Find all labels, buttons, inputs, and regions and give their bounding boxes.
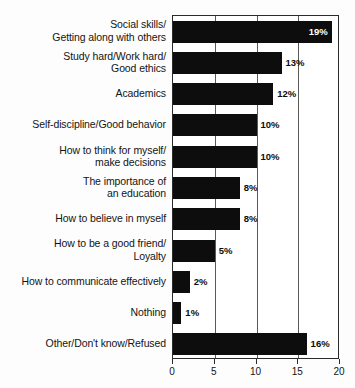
bar bbox=[173, 333, 307, 355]
x-tick-mark bbox=[297, 359, 298, 364]
x-tick-label: 20 bbox=[324, 366, 354, 377]
category-label: Nothing bbox=[0, 306, 166, 318]
bar-value-label: 19% bbox=[173, 21, 328, 43]
x-tick-label: 0 bbox=[157, 366, 187, 377]
bar bbox=[173, 177, 240, 199]
chart-title bbox=[120, 0, 300, 6]
category-label: How to be a good friend/Loyalty bbox=[0, 237, 166, 261]
plot-area: 19%13%12%10%10%8%8%5%2%1%16% bbox=[172, 15, 339, 359]
bar-value-label: 10% bbox=[261, 146, 280, 168]
category-label: The importance ofan education bbox=[0, 175, 166, 199]
bar bbox=[173, 83, 273, 105]
category-label: How to believe in myself bbox=[0, 212, 166, 224]
bar-value-label: 1% bbox=[185, 302, 199, 324]
x-tick-mark bbox=[172, 359, 173, 364]
bar bbox=[173, 146, 257, 168]
bar-value-label: 5% bbox=[219, 240, 233, 262]
category-label: How to communicate effectively bbox=[0, 275, 166, 287]
bar-value-label: 16% bbox=[311, 333, 330, 355]
x-axis: 05101520 bbox=[172, 359, 339, 385]
category-label: Other/Don't know/Refused bbox=[0, 337, 166, 349]
bar bbox=[173, 208, 240, 230]
horizontal-bar-chart: Social skills/Getting along with othersS… bbox=[0, 0, 355, 388]
x-tick-label: 5 bbox=[199, 366, 229, 377]
bar bbox=[173, 271, 190, 293]
category-label: Self-discipline/Good behavior bbox=[0, 118, 166, 130]
category-label: Social skills/Getting along with others bbox=[0, 18, 166, 42]
bar bbox=[173, 114, 257, 136]
category-label: How to think for myself/make decisions bbox=[0, 144, 166, 168]
bar-value-label: 8% bbox=[244, 177, 258, 199]
bar-value-label: 8% bbox=[244, 208, 258, 230]
category-labels-column: Social skills/Getting along with othersS… bbox=[0, 15, 166, 359]
x-tick-mark bbox=[214, 359, 215, 364]
category-label: Study hard/Work hard/Good ethics bbox=[0, 50, 166, 74]
x-tick-mark bbox=[256, 359, 257, 364]
bar-value-label: 13% bbox=[286, 52, 305, 74]
x-tick-mark bbox=[339, 359, 340, 364]
category-label: Academics bbox=[0, 87, 166, 99]
bar bbox=[173, 302, 181, 324]
x-tick-label: 15 bbox=[282, 366, 312, 377]
bar-value-label: 10% bbox=[261, 114, 280, 136]
bar bbox=[173, 52, 282, 74]
bar-value-label: 12% bbox=[277, 83, 296, 105]
bar-value-label: 2% bbox=[194, 271, 208, 293]
bar bbox=[173, 240, 215, 262]
x-tick-label: 10 bbox=[241, 366, 271, 377]
